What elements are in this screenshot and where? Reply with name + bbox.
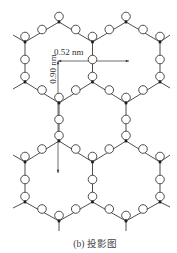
apical-oxygen-circle <box>156 72 165 81</box>
silicon-dot <box>125 102 128 105</box>
bond-stub <box>13 82 25 89</box>
bridging-oxygen-circle <box>105 25 114 34</box>
apical-oxygen-circle <box>55 211 64 220</box>
bridging-oxygen-circle <box>38 205 47 214</box>
bridging-oxygen-circle <box>122 115 131 124</box>
apical-oxygen-circle <box>55 93 64 102</box>
silicon-dot <box>58 140 61 143</box>
apical-oxygen-circle <box>88 152 97 161</box>
bond-stub <box>160 82 170 88</box>
apical-oxygen-circle <box>122 211 131 220</box>
silicon-dot <box>24 201 27 204</box>
bridging-oxygen-circle <box>71 145 80 154</box>
bond-stub <box>160 202 170 207</box>
silicon-dot <box>91 161 94 164</box>
bridging-oxygen-circle <box>139 25 148 34</box>
bridging-oxygen-circle <box>156 175 165 184</box>
apical-oxygen-circle <box>122 12 131 21</box>
apical-oxygen-circle <box>55 12 64 21</box>
bridging-oxygen-circle <box>38 86 47 95</box>
bond-stub <box>13 202 25 208</box>
silicate-sheet-projection-figure: 0.52 nm 0.90 nm (b) 投影图 <box>0 0 177 253</box>
apical-oxygen-circle <box>55 131 64 140</box>
bridging-oxygen-circle <box>38 145 47 154</box>
silicon-dot <box>125 220 128 223</box>
apical-oxygen-circle <box>21 72 30 81</box>
bridging-oxygen-circle <box>71 86 80 95</box>
bridging-oxygen-circle <box>21 55 30 64</box>
silicon-dot <box>159 41 162 44</box>
apical-oxygen-circle <box>88 72 97 81</box>
silicon-dot <box>91 201 94 204</box>
apical-oxygen-circle <box>88 32 97 41</box>
silicon-dot <box>58 102 61 105</box>
apical-oxygen-circle <box>156 152 165 161</box>
apical-oxygen-circle <box>21 32 30 41</box>
apical-oxygen-circle <box>122 131 131 140</box>
bridging-oxygen-circle <box>71 25 80 34</box>
bridging-oxygen-circle <box>105 145 114 154</box>
bridging-oxygen-circle <box>105 205 114 214</box>
bridging-oxygen-circle <box>139 205 148 214</box>
silicon-dot <box>58 21 61 24</box>
arrowhead-right-icon <box>126 60 129 63</box>
dimension-label-vertical: 0.90 nm <box>48 54 58 84</box>
bonds-layer <box>25 22 160 221</box>
silicon-dot <box>24 161 27 164</box>
apical-oxygen-circle <box>156 192 165 201</box>
silicon-dot <box>159 201 162 204</box>
silicon-dot <box>125 140 128 143</box>
bridging-oxygen-circle <box>105 86 114 95</box>
bridging-oxygen-circle <box>156 55 165 64</box>
bridging-oxygen-circle <box>139 86 148 95</box>
apical-oxygen-circle <box>21 152 30 161</box>
silicon-dot <box>24 81 27 84</box>
arrowhead-left-icon <box>58 60 61 63</box>
apical-oxygen-circle <box>156 32 165 41</box>
silicon-dot <box>91 81 94 84</box>
bridging-oxygen-circle <box>55 115 64 124</box>
figure-caption: (b) 投影图 <box>73 238 116 250</box>
silicon-dot <box>159 81 162 84</box>
bridging-oxygen-circle <box>71 205 80 214</box>
apical-oxygen-circle <box>21 192 30 201</box>
silicon-dot <box>159 161 162 164</box>
bridging-oxygen-circle <box>88 175 97 184</box>
hexagonal-lattice-diagram: 0.52 nm 0.90 nm (b) 投影图 <box>0 0 177 253</box>
silicon-dot <box>58 220 61 223</box>
silicon-dot <box>91 41 94 44</box>
apical-oxygen-circle <box>88 192 97 201</box>
arrowhead-down-icon <box>57 170 60 173</box>
bridging-oxygen-circle <box>88 55 97 64</box>
bridging-oxygen-circle <box>21 175 30 184</box>
bridging-oxygen-circle <box>139 145 148 154</box>
silicon-dot <box>125 21 128 24</box>
bridging-oxygen-circle <box>38 25 47 34</box>
silicon-dot <box>24 41 27 44</box>
apical-oxygen-circle <box>122 93 131 102</box>
dimension-label-horizontal: 0.52 nm <box>54 47 84 57</box>
